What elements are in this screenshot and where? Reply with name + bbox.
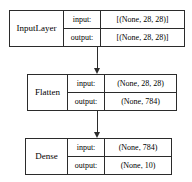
node-input-layer-output-row: output: [(None, 28, 28)] <box>64 29 184 47</box>
node-input-layer-io: input: [(None, 28, 28)] output: [(None, … <box>64 11 184 46</box>
node-dense-output-label: output: <box>68 157 105 175</box>
node-input-layer-input-row: input: [(None, 28, 28)] <box>64 11 184 29</box>
node-flatten-io: input: (None, 28, 28) output: (None, 784… <box>68 75 176 110</box>
node-flatten[interactable]: Flatten input: (None, 28, 28) output: (N… <box>27 74 177 111</box>
node-flatten-output-row: output: (None, 784) <box>68 93 176 111</box>
node-dense[interactable]: Dense input: (None, 784) output: (None, … <box>25 138 172 175</box>
edge-line <box>97 47 98 68</box>
node-flatten-output-shape: (None, 784) <box>105 93 176 111</box>
node-input-layer-output-shape: [(None, 28, 28)] <box>101 29 184 47</box>
node-dense-io: input: (None, 784) output: (None, 10) <box>68 139 171 174</box>
model-diagram-canvas: InputLayer input: [(None, 28, 28)] outpu… <box>0 0 192 182</box>
edge-flatten-to-dense <box>97 111 98 138</box>
node-flatten-input-row: input: (None, 28, 28) <box>68 75 176 93</box>
node-flatten-output-label: output: <box>68 93 105 111</box>
node-input-layer-input-label: input: <box>64 11 101 28</box>
node-input-layer-output-label: output: <box>64 29 101 47</box>
edge-input-layer-to-flatten <box>97 47 98 74</box>
node-flatten-input-label: input: <box>68 75 105 92</box>
node-input-layer[interactable]: InputLayer input: [(None, 28, 28)] outpu… <box>9 10 185 47</box>
node-dense-input-row: input: (None, 784) <box>68 139 171 157</box>
edge-line <box>97 111 98 132</box>
node-flatten-input-shape: (None, 28, 28) <box>105 75 176 92</box>
node-dense-output-shape: (None, 10) <box>105 157 171 175</box>
node-dense-input-label: input: <box>68 139 105 156</box>
node-input-layer-title: InputLayer <box>10 11 64 46</box>
node-dense-title: Dense <box>26 139 68 174</box>
node-flatten-title: Flatten <box>28 75 68 110</box>
node-dense-output-row: output: (None, 10) <box>68 157 171 175</box>
node-input-layer-input-shape: [(None, 28, 28)] <box>101 11 184 28</box>
node-dense-input-shape: (None, 784) <box>105 139 171 156</box>
